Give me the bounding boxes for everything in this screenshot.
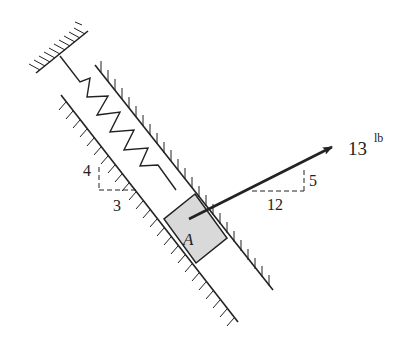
- spring-slope-rise: 4: [83, 162, 91, 179]
- guide-wall-left: [59, 95, 238, 326]
- force-magnitude: 13: [348, 138, 367, 159]
- block-label: A: [182, 230, 194, 249]
- force-slope-run: 12: [267, 196, 283, 213]
- mechanics-diagram: A 13 lb 5 12 4 3: [0, 0, 411, 342]
- fixed-support: [29, 22, 88, 73]
- force-slope-triangle: [252, 168, 304, 191]
- force-unit: lb: [374, 131, 383, 145]
- force-slope-rise: 5: [309, 172, 317, 189]
- spring-slope-run: 3: [113, 197, 121, 214]
